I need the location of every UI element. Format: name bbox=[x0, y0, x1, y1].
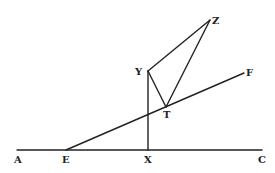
label-E: E bbox=[62, 154, 70, 165]
segment-YT bbox=[148, 71, 166, 107]
label-A: A bbox=[13, 154, 22, 165]
label-F: F bbox=[246, 67, 253, 78]
label-Z: Z bbox=[212, 15, 219, 26]
label-X: X bbox=[144, 154, 152, 165]
label-C: C bbox=[258, 154, 266, 165]
label-Y: Y bbox=[134, 66, 143, 77]
segment-YZ bbox=[148, 20, 210, 71]
geometric-diagram: A E X C F Y T Z bbox=[0, 0, 275, 173]
segment-TZ bbox=[166, 20, 210, 107]
label-T: T bbox=[163, 109, 171, 120]
